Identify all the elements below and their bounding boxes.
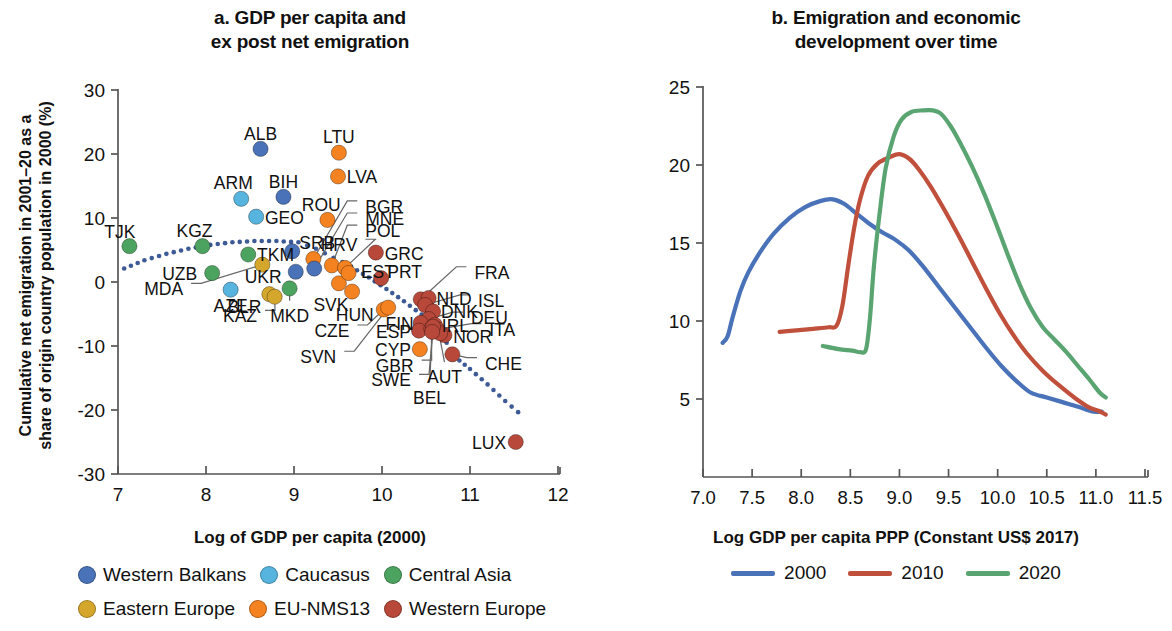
legend-label: EU-NMS13 <box>274 598 370 620</box>
panel-a-y-tick-label: 0 <box>94 272 105 293</box>
scatter-label-bel: BEL <box>413 388 446 408</box>
legend-label: 2010 <box>901 562 943 584</box>
legend-dot-icon <box>260 566 278 584</box>
legend-row-2: Eastern EuropeEU-NMS13Western Europe <box>78 592 618 626</box>
panel-b-x-tick-label: 11.5 <box>1128 487 1163 508</box>
scatter-label-bih: BIH <box>269 172 298 192</box>
scatter-point-grc <box>368 245 383 260</box>
legend-dot-icon <box>384 566 402 584</box>
scatter-label-grc: GRC <box>385 244 424 264</box>
scatter-label-rou: ROU <box>302 195 341 215</box>
legend-line-icon <box>731 571 775 576</box>
scatter-point-svn <box>381 300 396 315</box>
panel-b-plot: 2520151057.07.58.08.59.09.510.010.511.01… <box>620 0 1172 520</box>
legend-dot-icon <box>249 600 267 618</box>
scatter-point-ukr <box>288 264 303 279</box>
scatter-label-che: CHE <box>485 354 522 374</box>
panel-a-y-tick-label: 10 <box>84 208 105 229</box>
scatter-point-mkd <box>282 281 297 296</box>
scatter-point-geo <box>249 209 264 224</box>
scatter-point-pol <box>324 258 339 273</box>
legend-item-eastern-europe[interactable]: Eastern Europe <box>78 598 235 620</box>
scatter-label-prt: PRT <box>387 262 422 282</box>
legend-item-western-balkans[interactable]: Western Balkans <box>78 564 246 586</box>
scatter-point-kaz <box>267 289 282 304</box>
line-series-2020 <box>823 110 1106 397</box>
scatter-point-che <box>445 347 460 362</box>
legend-item-2000[interactable]: 2000 <box>731 562 826 584</box>
line-series-2000 <box>723 199 1102 412</box>
legend-dot-icon <box>384 600 402 618</box>
legend-label: Central Asia <box>409 564 511 586</box>
panel-b-y-tick-label: 10 <box>669 311 690 332</box>
panel-b-x-tick-label: 10.0 <box>980 487 1016 508</box>
panel-a-y-tick-label: -20 <box>78 400 105 421</box>
scatter-point-labels: TJKKGZUZBTKMMDAAZEARMGEOALBBIHSRBBLRKAZU… <box>104 124 522 453</box>
panel-a-y-tick-label: -30 <box>78 464 105 485</box>
panel-a-x-tick-label: 8 <box>201 484 212 505</box>
panel-b-legend: 200020102020 <box>620 562 1172 584</box>
scatter-label-aut: AUT <box>427 367 462 387</box>
legend-line-icon <box>848 571 892 576</box>
legend-label: Eastern Europe <box>103 598 235 620</box>
panel-b-x-tick-label: 7.5 <box>739 487 765 508</box>
panel-b-x-tick-label: 11.0 <box>1079 487 1114 508</box>
scatter-point-tkm <box>241 247 256 262</box>
scatter-point-lva <box>330 169 345 184</box>
panel-b-y-tick-label: 20 <box>669 155 690 176</box>
panel-a-x-axis-title: Log of GDP per capita (2000) <box>0 528 620 548</box>
legend-item-central-asia[interactable]: Central Asia <box>384 564 511 586</box>
legend-label: 2020 <box>1019 562 1061 584</box>
scatter-label-ltu: LTU <box>323 127 355 147</box>
scatter-point-mne <box>307 261 322 276</box>
legend-item-western-europe[interactable]: Western Europe <box>384 598 546 620</box>
scatter-point-cyp <box>412 342 427 357</box>
panel-b-x-axis-title: Log GDP per capita PPP (Constant US$ 201… <box>620 528 1172 548</box>
scatter-label-ita: ITA <box>489 320 515 340</box>
scatter-label-tjk: TJK <box>104 222 135 242</box>
scatter-label-mda: MDA <box>144 279 183 299</box>
scatter-label-arm: ARM <box>214 173 253 193</box>
legend-label: Western Balkans <box>103 564 246 586</box>
panel-b-x-tick-label: 8.0 <box>788 487 814 508</box>
legend-item-caucasus[interactable]: Caucasus <box>260 564 370 586</box>
scatter-point-aze <box>223 282 238 297</box>
scatter-label-alb: ALB <box>244 124 277 144</box>
scatter-label-lva: LVA <box>347 167 378 187</box>
panel-b-x-tick-label: 7.0 <box>690 487 716 508</box>
legend-dot-icon <box>78 600 96 618</box>
scatter-label-kgz: KGZ <box>177 221 213 241</box>
legend-item-2020[interactable]: 2020 <box>966 562 1061 584</box>
scatter-label-cze: CZE <box>314 321 349 341</box>
panel-a-plot: 3020100-10-20-30789101112TJKKGZUZBTKMMDA… <box>0 0 620 520</box>
panel-a-x-tick-label: 11 <box>460 484 480 505</box>
panel-b-x-tick-label: 10.5 <box>1029 487 1065 508</box>
panel-b-x-tick-label: 9.0 <box>887 487 913 508</box>
scatter-point-lux <box>508 434 523 449</box>
panel-a-x-tick-label: 9 <box>289 484 300 505</box>
panel-b-y-tick-label: 15 <box>669 233 690 254</box>
scatter-label-esp: ESP <box>376 322 411 342</box>
panel-b: b. Emigration and economic development o… <box>620 0 1172 631</box>
legend-item-eu-nms13[interactable]: EU-NMS13 <box>249 598 370 620</box>
scatter-label-lux: LUX <box>472 433 506 453</box>
legend-dot-icon <box>78 566 96 584</box>
scatter-point-uzb <box>205 265 220 280</box>
panel-b-y-tick-label: 25 <box>669 77 690 98</box>
panel-a: a. GDP per capita and ex post net emigra… <box>0 0 620 631</box>
panel-b-x-tick-label: 8.5 <box>837 487 863 508</box>
scatter-label-swe: SWE <box>371 370 411 390</box>
scatter-label-nor: NOR <box>453 327 492 347</box>
scatter-point-bel <box>425 324 440 339</box>
panel-a-x-tick-label: 7 <box>113 484 124 505</box>
scatter-point-arm <box>234 191 249 206</box>
line-series-2010 <box>780 154 1106 415</box>
legend-row-1: Western BalkansCaucasusCentral Asia <box>78 558 618 592</box>
legend-label: 2000 <box>784 562 826 584</box>
panel-a-legend: Western BalkansCaucasusCentral AsiaEaste… <box>78 558 618 626</box>
scatter-point-est <box>341 265 356 280</box>
legend-item-2010[interactable]: 2010 <box>848 562 943 584</box>
panel-b-x-tick-label: 9.5 <box>936 487 962 508</box>
scatter-label-kaz: KAZ <box>223 306 257 326</box>
scatter-label-ukr: UKR <box>245 267 282 287</box>
